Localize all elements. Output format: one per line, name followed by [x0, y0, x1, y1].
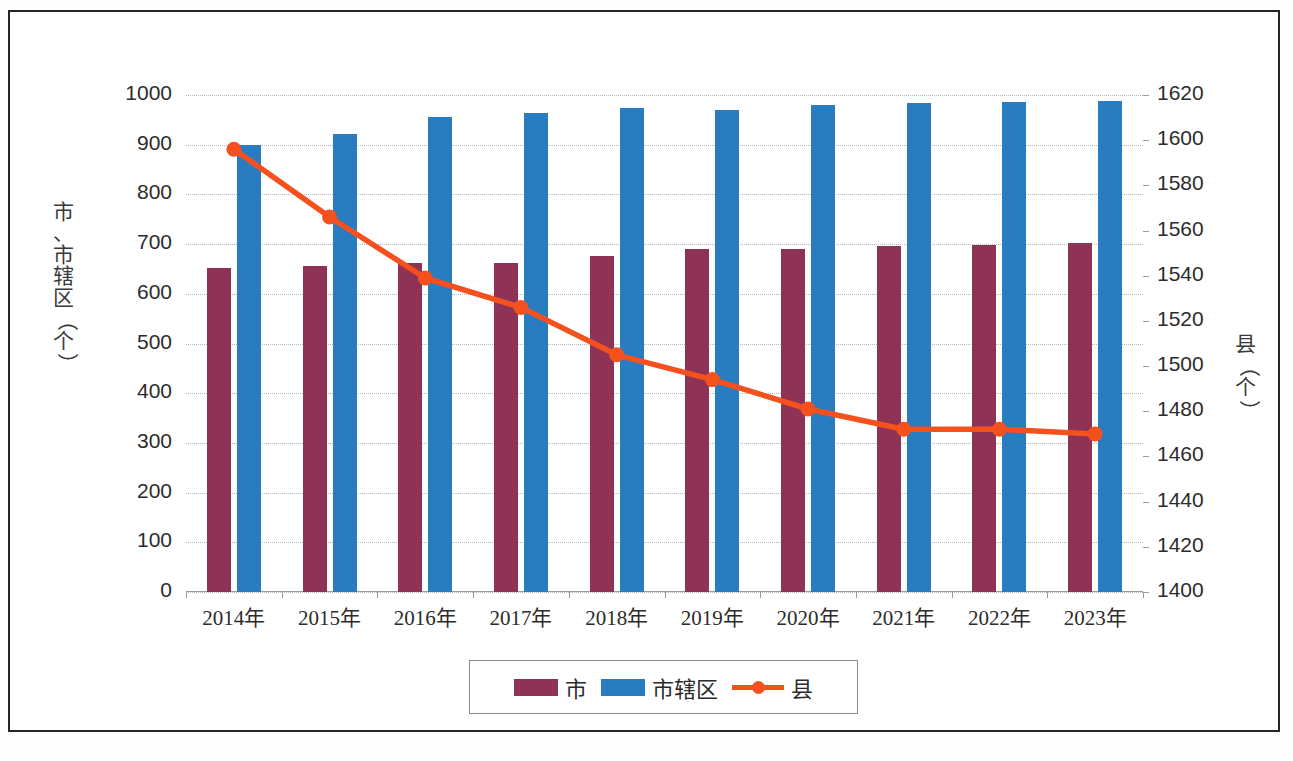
bar-shixiaqu [620, 108, 644, 592]
y-tickmark-right [1143, 231, 1149, 232]
bar-shi [590, 256, 614, 592]
x-tick-label: 2023年 [1040, 601, 1150, 631]
x-tick-label: 2019年 [657, 601, 767, 631]
y-tickmark-right [1143, 185, 1149, 186]
bar-shi [685, 249, 709, 592]
bar-shi [494, 263, 518, 593]
bar-shi [207, 268, 231, 592]
x-tickmark [569, 592, 570, 598]
legend-label: 县 [791, 671, 813, 703]
x-tickmark [377, 592, 378, 598]
axis-title-char: ） [1234, 393, 1256, 427]
gridline [186, 393, 1143, 395]
bar-shixiaqu [428, 117, 452, 592]
x-tick-label: 2018年 [562, 601, 672, 631]
bar-shixiaqu [811, 105, 835, 592]
x-tick-label: 2022年 [944, 601, 1054, 631]
y-axis-title-right: 县（个） [1228, 334, 1262, 421]
y-tickmark-right [1143, 276, 1149, 277]
axis-title-char: 市 [46, 245, 80, 266]
gridline [186, 294, 1143, 296]
axis-title-char: （ [1234, 349, 1256, 383]
y-axis-title-left: 市、市辖区（个） [46, 202, 80, 374]
x-tickmark [952, 592, 953, 598]
x-tick-label: 2020年 [753, 601, 863, 631]
x-tick-label: 2016年 [370, 601, 480, 631]
y-tick-label-right: 1620 [1157, 81, 1229, 105]
axis-title-char: ） [52, 346, 74, 380]
y-tick-label-left: 300 [100, 429, 172, 453]
y-tick-label-left: 500 [100, 330, 172, 354]
y-tick-label-right: 1520 [1157, 307, 1229, 331]
axis-title-char: 、 [46, 223, 80, 244]
axis-title-char: （ [52, 303, 74, 337]
bar-shi [781, 249, 805, 592]
y-tick-label-right: 1560 [1157, 217, 1229, 241]
x-tickmark [473, 592, 474, 598]
x-tickmark [1047, 592, 1048, 598]
x-tick-label: 2015年 [275, 601, 385, 631]
bar-shixiaqu [524, 113, 548, 592]
x-tick-label: 2014年 [179, 601, 289, 631]
gridline [186, 244, 1143, 246]
y-tickmark-right [1143, 456, 1149, 457]
y-tick-label-left: 800 [100, 180, 172, 204]
plot-area: 县 2014年: 1596县 2015年: 1566县 2016年: 1539县… [186, 95, 1143, 592]
bar-shi [877, 246, 901, 592]
bar-shi [1068, 243, 1092, 592]
legend-item[interactable]: 市辖区 [601, 671, 718, 703]
bar-shixiaqu [333, 134, 357, 592]
gridline [186, 493, 1143, 495]
gridline [186, 443, 1143, 445]
y-tickmark-right [1143, 502, 1149, 503]
axis-title-char: 市 [46, 202, 80, 223]
y-tick-label-right: 1580 [1157, 171, 1229, 195]
x-tickmark [282, 592, 283, 598]
gridline [186, 194, 1143, 196]
legend-line-marker-icon [732, 678, 784, 696]
y-tick-label-left: 0 [100, 578, 172, 602]
y-tick-label-right: 1540 [1157, 262, 1229, 286]
chart-legend: 市市辖区县 [469, 660, 858, 714]
y-tickmark-right [1143, 411, 1149, 412]
y-tick-label-left: 200 [100, 479, 172, 503]
y-tickmark-right [1143, 95, 1149, 96]
y-tickmark-right [1143, 547, 1149, 548]
y-tick-label-right: 1480 [1157, 397, 1229, 421]
legend-item[interactable]: 市 [514, 671, 587, 703]
y-tick-label-right: 1420 [1157, 533, 1229, 557]
bar-shi [398, 263, 422, 592]
bar-shi [303, 266, 327, 592]
x-tickmark [760, 592, 761, 598]
y-tick-label-right: 1460 [1157, 442, 1229, 466]
y-tickmark-right [1143, 321, 1149, 322]
line-xian [234, 149, 1095, 434]
y-tick-label-left: 900 [100, 131, 172, 155]
axis-title-char: 辖 [46, 266, 80, 287]
legend-swatch [601, 679, 645, 696]
x-tickmark [856, 592, 857, 598]
legend-swatch [514, 679, 558, 696]
bar-shixiaqu [907, 103, 931, 592]
legend-label: 市辖区 [652, 671, 718, 703]
x-tick-label: 2017年 [466, 601, 576, 631]
legend-label: 市 [565, 671, 587, 703]
y-tick-label-left: 400 [100, 379, 172, 403]
y-tick-label-left: 1000 [100, 81, 172, 105]
gridline [186, 145, 1143, 147]
bar-shixiaqu [1002, 102, 1026, 592]
y-tick-label-right: 1500 [1157, 352, 1229, 376]
legend-item[interactable]: 县 [732, 671, 813, 703]
bar-shixiaqu [1098, 101, 1122, 592]
y-tickmark-right [1143, 366, 1149, 367]
chart-figure: 市、市辖区（个） 县（个） 01002003004005006007008009… [0, 0, 1293, 761]
x-tick-label: 2021年 [849, 601, 959, 631]
y-tick-label-left: 600 [100, 280, 172, 304]
gridline [186, 542, 1143, 544]
bar-shixiaqu [715, 110, 739, 592]
y-tick-label-left: 700 [100, 230, 172, 254]
x-tickmark [665, 592, 666, 598]
bar-shi [972, 245, 996, 592]
gridline [186, 95, 1143, 97]
y-tick-label-right: 1600 [1157, 126, 1229, 150]
